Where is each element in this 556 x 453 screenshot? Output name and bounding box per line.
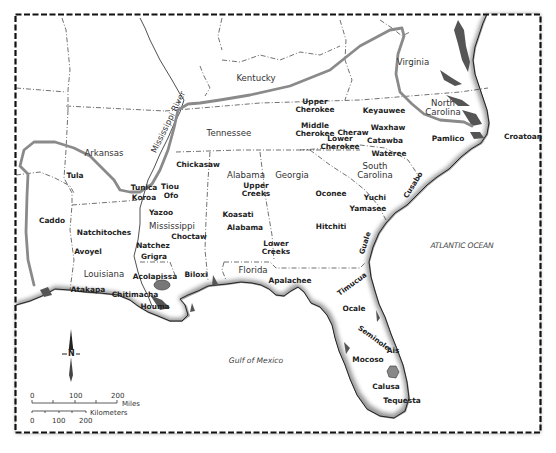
tribe-label-natchez: Natchez [136, 242, 170, 249]
state-label-arkansas: Arkansas [84, 149, 123, 158]
ocean-area [16, 14, 540, 433]
tribe-label-oconee: Oconee [315, 190, 346, 197]
tribe-label-acolapissa: Acolapissa [133, 273, 177, 280]
tribe-label-tiou: Tiou [161, 183, 179, 190]
map-canvas [0, 0, 556, 453]
tribe-label-chickasaw: Chickasaw [176, 161, 220, 168]
tribe-label-chitimacha: Chitimacha [112, 291, 159, 298]
tribe-label-wateree: Wateree [371, 150, 406, 157]
tribe-label-yamasee: Yamasee [350, 205, 387, 212]
tribe-label-grigra: Grigra [141, 253, 167, 260]
tribe-label-caddo: Caddo [39, 217, 65, 224]
tribe-label-upper-cherokee: UpperCherokee [295, 98, 334, 114]
tribe-label-croatoan: Croatoan [504, 133, 542, 140]
southeast-native-peoples-map: KentuckyVirginiaTennesseeNorthCarolinaAr… [0, 0, 556, 453]
tribe-label-tequesta: Tequesta [383, 397, 421, 404]
state-label-louisiana: Louisiana [84, 270, 125, 279]
scale-km-unit: Kilometers [90, 409, 127, 417]
tribe-label-choctaw: Choctaw [171, 233, 207, 240]
scale-miles-unit: Miles [122, 400, 140, 408]
compass-north-label: N [67, 350, 76, 358]
state-label-florida-state: Florida [238, 266, 267, 275]
water-label-gulf-of-mexico: Gulf of Mexico [229, 357, 283, 365]
tribe-label-avoyel: Avoyel [74, 248, 102, 255]
state-label-virginia: Virginia [397, 58, 429, 67]
scale-miles-tick-200: 200 [111, 392, 124, 400]
tribe-label-tula: Tula [66, 172, 83, 179]
tribe-label-natchitoches: Natchitoches [77, 229, 132, 236]
tribe-label-pamlico: Pamlico [432, 135, 464, 142]
lake-okeechobee [387, 366, 399, 378]
state-label-mississippi: Mississippi [149, 222, 195, 231]
state-label-north-carolina: NorthCarolina [425, 99, 460, 118]
tribe-label-calusa: Calusa [372, 383, 400, 390]
tribe-label-atakapa: Atakapa [71, 286, 105, 293]
tribe-label-ocale: Ocale [342, 305, 365, 312]
tribe-label-lower-creeks: LowerCreeks [262, 240, 290, 256]
tribe-label-apalachee: Apalachee [268, 277, 311, 284]
tribe-label-catawba: Catawba [367, 137, 403, 144]
tribe-label-koasati: Koasati [222, 211, 253, 218]
scale-km-tick-100: 100 [52, 417, 65, 425]
tribe-label-keyauwee: Keyauwee [363, 107, 406, 114]
state-label-kentucky: Kentucky [236, 74, 275, 83]
scale-miles-tick-0: 0 [30, 392, 34, 400]
tribe-label-tunica: Tunica [131, 184, 158, 191]
tribe-label-alabama-tribe: Alabama [227, 224, 263, 231]
tribe-label-ofo: Ofo [164, 192, 179, 199]
tribe-label-houma: Houma [140, 303, 169, 310]
state-label-alabama-state: Alabama [227, 171, 265, 180]
state-label-georgia: Georgia [275, 171, 309, 180]
tribe-label-hitchiti: Hitchiti [316, 223, 347, 230]
tribe-label-koroa: Koroa [132, 194, 156, 201]
scale-miles-tick-100: 100 [69, 392, 82, 400]
scale-km-tick-200: 200 [79, 417, 92, 425]
tribe-label-mocoso: Mocoso [352, 356, 383, 363]
tribe-label-upper-creeks: UpperCreeks [242, 182, 270, 198]
state-label-tennessee: Tennessee [207, 129, 252, 138]
lake-pontchartrain [154, 280, 170, 290]
tribe-label-waxhaw: Waxhaw [371, 124, 406, 131]
tribe-label-yuchi: Yuchi [364, 194, 386, 201]
tribe-label-lower-cherokee: LowerCherokee [320, 135, 359, 151]
scale-km-tick-0: 0 [30, 417, 34, 425]
tribe-label-biloxi: Biloxi [184, 271, 207, 278]
state-label-south-carolina: SouthCarolina [357, 162, 392, 181]
tribe-label-yazoo: Yazoo [149, 209, 173, 216]
water-label-atlantic-ocean: ATLANTIC OCEAN [430, 242, 493, 250]
